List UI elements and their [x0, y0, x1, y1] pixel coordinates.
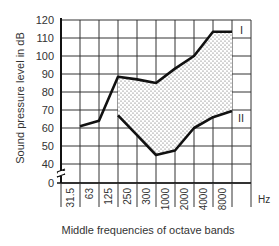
- svg-text:50: 50: [42, 140, 54, 152]
- svg-text:90: 90: [42, 68, 54, 80]
- svg-text:63: 63: [84, 188, 95, 200]
- svg-text:2000: 2000: [179, 188, 190, 211]
- x-axis-title: Middle frequencies of octave bands: [61, 224, 235, 236]
- svg-text:250: 250: [122, 188, 133, 205]
- x-tick-labels: 31.5631252503001000200040008000: [65, 188, 228, 211]
- svg-text:31.5: 31.5: [65, 188, 76, 208]
- svg-text:300: 300: [141, 188, 152, 205]
- y-axis-title: Sound pressure level in dB: [14, 32, 26, 163]
- svg-text:8000: 8000: [217, 188, 228, 211]
- svg-text:40: 40: [42, 158, 54, 170]
- x-unit-label: Hz: [258, 194, 270, 205]
- chart: 0405060708090100110120 31.56312525030010…: [0, 0, 279, 246]
- svg-text:110: 110: [36, 32, 54, 44]
- series-I-label: I: [240, 24, 243, 36]
- svg-text:125: 125: [103, 188, 114, 205]
- svg-text:100: 100: [36, 50, 54, 62]
- svg-text:0: 0: [48, 177, 54, 189]
- svg-text:60: 60: [42, 122, 54, 134]
- series-II-label: II: [238, 112, 244, 124]
- svg-text:1000: 1000: [160, 188, 171, 211]
- y-tick-labels: 0405060708090100110120: [36, 14, 54, 189]
- svg-text:80: 80: [42, 86, 54, 98]
- svg-text:4000: 4000: [198, 188, 209, 211]
- svg-text:70: 70: [42, 104, 54, 116]
- svg-text:120: 120: [36, 14, 54, 26]
